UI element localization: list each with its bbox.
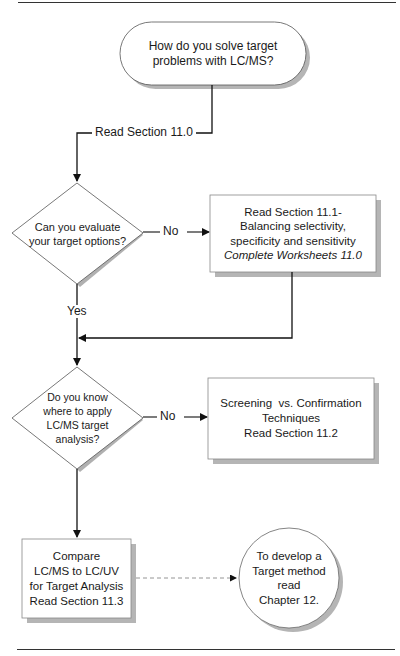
flowchart-canvas: How do you solve target problems with LC… (0, 0, 400, 656)
process3-line-4: Read Section 11.3 (30, 594, 124, 609)
decision1-line-2: your target options? (29, 234, 126, 248)
process1-line-1: Read Section 11.1- (244, 205, 342, 220)
decision1: Can you evaluate your target options? (12, 183, 143, 284)
decision2: Do you know where to apply LC/MS target … (12, 367, 143, 469)
process1-italic-line: Complete Worksheets 11.0 (224, 248, 362, 263)
process1-line-2: Balancing selectivity, (240, 219, 346, 234)
start-line-1: How do you solve target (149, 39, 278, 54)
start-line-2: problems with LC/MS? (153, 54, 274, 69)
decision1-no-label: No (163, 225, 178, 238)
decision1-yes-label: Yes (66, 305, 88, 318)
process2-line-3: Read Section 11.2 (244, 426, 338, 441)
decision2-line-1: Do you know (47, 390, 108, 404)
decision2-line-4: analysis? (56, 432, 100, 446)
connector-line-2: Target method (252, 564, 326, 579)
connector-circle: To develop a Target method read Chapter … (239, 528, 339, 628)
decision2-line-3: LC/MS target (47, 418, 109, 432)
connector-line-4: Chapter 12. (259, 593, 319, 608)
process2: Screening vs. Confirmation Techniques Re… (208, 378, 374, 459)
process1-line-3: specificity and sensitivity (230, 234, 355, 249)
process3-line-3: for Target Analysis (30, 579, 124, 594)
edge-label-read-section-11-0: Read Section 11.0 (92, 126, 196, 139)
process1: Read Section 11.1- Balancing selectivity… (210, 195, 376, 272)
decision2-line-2: where to apply (43, 404, 111, 418)
process3-line-1: Compare (53, 549, 100, 564)
connector-line-1: To develop a (256, 549, 321, 564)
process2-line-2: Techniques (262, 411, 320, 426)
decision1-line-1: Can you evaluate (35, 220, 121, 234)
connector-line-3: read (277, 578, 300, 593)
start-terminator: How do you solve target problems with LC… (120, 22, 306, 85)
decision2-no-label: No (160, 410, 175, 423)
process3-line-2: LC/MS to LC/UV (34, 564, 119, 579)
process2-line-1: Screening vs. Confirmation (220, 396, 361, 411)
process3: Compare LC/MS to LC/UV for Target Analys… (22, 539, 131, 618)
